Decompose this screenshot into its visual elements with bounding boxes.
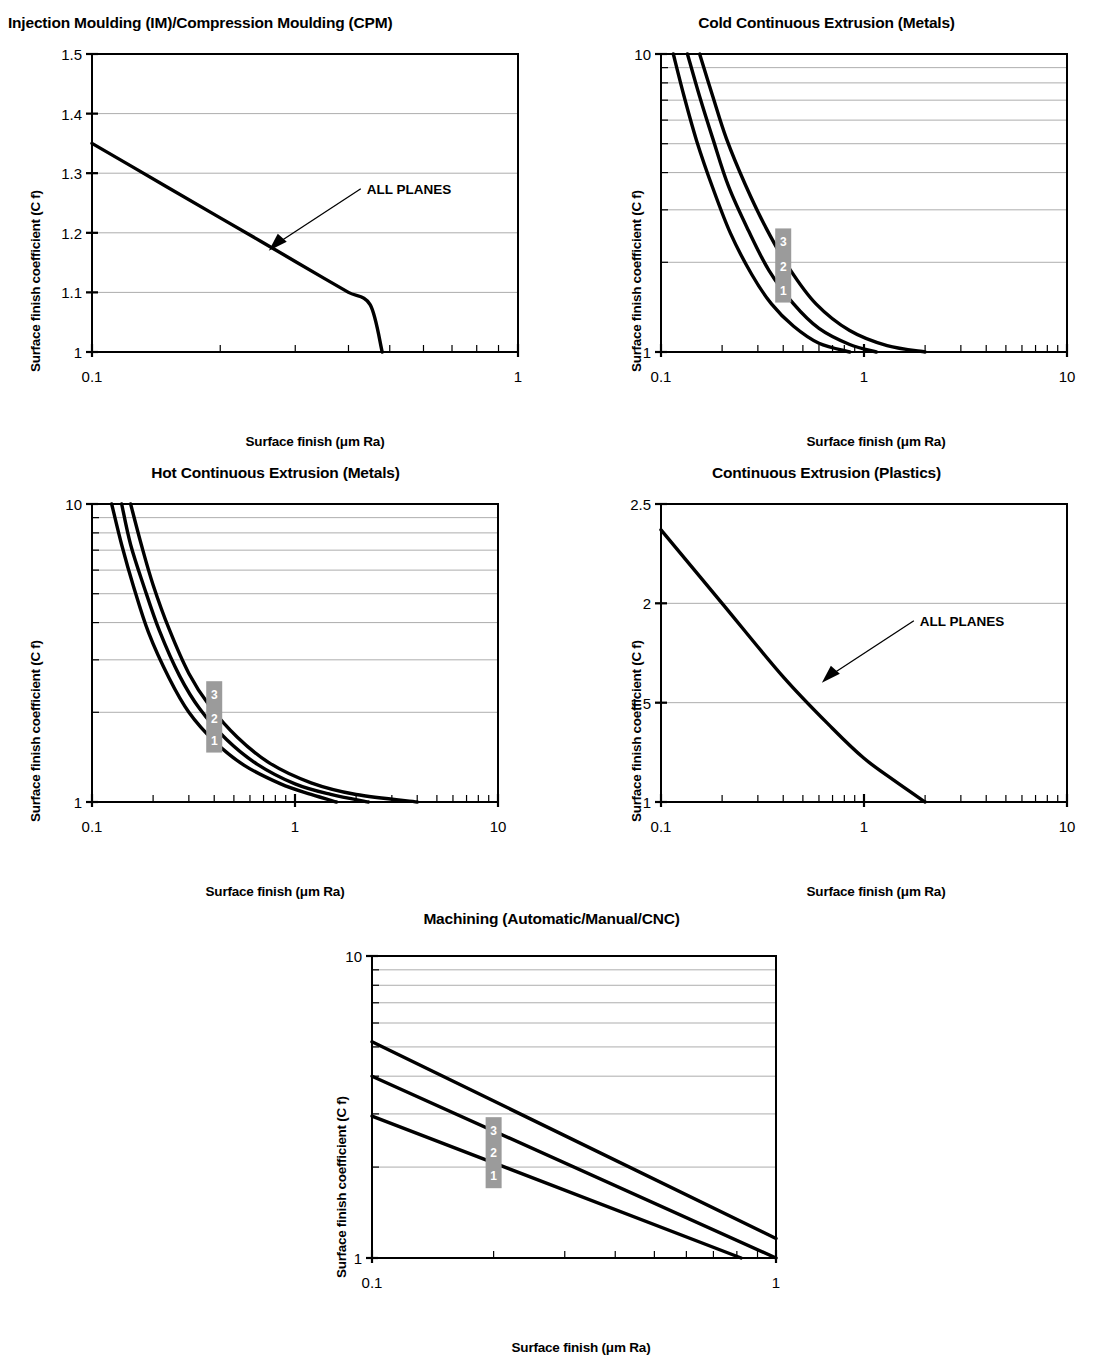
annotation-label: ALL PLANES bbox=[367, 182, 452, 197]
x-tick-label: 0.1 bbox=[82, 368, 103, 385]
y-tick-label: 1 bbox=[354, 1250, 362, 1267]
y-axis-label: Surface finish coefficient (C f) bbox=[629, 190, 644, 372]
annotation-leader-line bbox=[280, 189, 361, 242]
chart-title: Machining (Automatic/Manual/CNC) bbox=[276, 910, 827, 928]
y-axis-label: Surface finish coefficient (C f) bbox=[28, 190, 43, 372]
data-curve-2 bbox=[687, 54, 876, 352]
x-tick-label: 1 bbox=[772, 1274, 780, 1291]
annotation-label: ALL PLANES bbox=[920, 614, 1005, 629]
series-label-2: 2 bbox=[780, 260, 787, 274]
chart-panel-continuous-extrusion-plastics: Continuous Extrusion (Plastics) Surface … bbox=[551, 464, 1102, 852]
y-tick-label: 10 bbox=[65, 496, 82, 513]
x-axis-label: Surface finish (μm Ra) bbox=[661, 434, 1091, 449]
y-tick-label: 10 bbox=[634, 46, 651, 63]
data-curve-1 bbox=[112, 504, 337, 802]
x-tick-label: 1 bbox=[291, 818, 299, 835]
y-tick-label: 1.4 bbox=[61, 106, 82, 123]
series-label-2: 2 bbox=[490, 1146, 497, 1160]
y-tick-label: 1.3 bbox=[61, 165, 82, 182]
annotation-leader-line bbox=[833, 621, 914, 674]
x-tick-label: 0.1 bbox=[362, 1274, 383, 1291]
plot-frame bbox=[92, 54, 518, 352]
plot-frame bbox=[92, 504, 498, 802]
data-curve-1 bbox=[372, 1116, 741, 1258]
series-label-1: 1 bbox=[780, 284, 787, 298]
plot-area-cold-continuous-extrusion: Surface finish coefficient (C f) 1100.11… bbox=[551, 42, 1102, 402]
plot-frame bbox=[372, 956, 776, 1258]
chart-title: Continuous Extrusion (Plastics) bbox=[551, 464, 1102, 482]
y-tick-label: 1.5 bbox=[61, 46, 82, 63]
data-curve-all-planes bbox=[661, 530, 925, 802]
chart-panel-machining: Machining (Automatic/Manual/CNC) Surface… bbox=[276, 910, 827, 1308]
chart-title: Hot Continuous Extrusion (Metals) bbox=[0, 464, 551, 482]
plot-frame bbox=[661, 54, 1067, 352]
y-tick-label: 2 bbox=[643, 595, 651, 612]
y-axis-label: Surface finish coefficient (C f) bbox=[28, 640, 43, 822]
y-axis-label: Surface finish coefficient (C f) bbox=[334, 1096, 349, 1278]
plot-area-continuous-extrusion-plastics: Surface finish coefficient (C f) 11.522.… bbox=[551, 492, 1102, 852]
x-axis-label: Surface finish (μm Ra) bbox=[661, 884, 1091, 899]
x-axis-label: Surface finish (μm Ra) bbox=[60, 884, 490, 899]
x-tick-label: 1 bbox=[860, 818, 868, 835]
x-tick-label: 10 bbox=[1059, 368, 1076, 385]
series-label-3: 3 bbox=[780, 235, 787, 249]
data-curve-3 bbox=[700, 54, 925, 352]
y-tick-label: 1.2 bbox=[61, 225, 82, 242]
y-axis-label: Surface finish coefficient (C f) bbox=[629, 640, 644, 822]
x-tick-label: 10 bbox=[490, 818, 507, 835]
series-label-3: 3 bbox=[211, 688, 218, 702]
chart-panel-injection-moulding: Injection Moulding (IM)/Compression Moul… bbox=[0, 14, 551, 402]
y-tick-label: 2.5 bbox=[630, 496, 651, 513]
x-tick-label: 0.1 bbox=[651, 818, 672, 835]
chart-title: Injection Moulding (IM)/Compression Moul… bbox=[0, 14, 559, 32]
series-label-3: 3 bbox=[490, 1124, 497, 1138]
annotation-arrowhead bbox=[269, 234, 287, 251]
plot-area-injection-moulding: Surface finish coefficient (C f) 11.11.2… bbox=[0, 42, 551, 402]
y-tick-label: 1.1 bbox=[61, 284, 82, 301]
plot-area-machining: Surface finish coefficient (C f) 1100.11… bbox=[276, 938, 827, 1308]
chart-panel-cold-continuous-extrusion: Cold Continuous Extrusion (Metals) Surfa… bbox=[551, 14, 1102, 402]
chart-title: Cold Continuous Extrusion (Metals) bbox=[551, 14, 1102, 32]
annotation-arrowhead bbox=[822, 666, 840, 683]
plot-area-hot-continuous-extrusion: Surface finish coefficient (C f) 1100.11… bbox=[0, 492, 551, 852]
x-tick-label: 10 bbox=[1059, 818, 1076, 835]
data-curve-all-planes bbox=[92, 143, 382, 352]
x-tick-label: 1 bbox=[514, 368, 522, 385]
x-tick-label: 1 bbox=[860, 368, 868, 385]
x-tick-label: 0.1 bbox=[82, 818, 103, 835]
chart-panel-hot-continuous-extrusion: Hot Continuous Extrusion (Metals) Surfac… bbox=[0, 464, 551, 852]
x-axis-label: Surface finish (μm Ra) bbox=[366, 1340, 796, 1355]
data-curve-3 bbox=[131, 504, 418, 802]
series-label-1: 1 bbox=[211, 734, 218, 748]
x-tick-label: 0.1 bbox=[651, 368, 672, 385]
y-tick-label: 1 bbox=[74, 344, 82, 361]
series-label-2: 2 bbox=[211, 712, 218, 726]
series-label-1: 1 bbox=[490, 1169, 497, 1183]
y-tick-label: 10 bbox=[345, 948, 362, 965]
y-tick-label: 1 bbox=[74, 794, 82, 811]
x-axis-label: Surface finish (μm Ra) bbox=[100, 434, 530, 449]
